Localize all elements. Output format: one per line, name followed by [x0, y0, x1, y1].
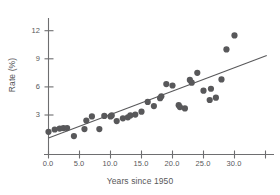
data-point: [163, 81, 169, 87]
data-point: [213, 95, 219, 101]
x-tick-label-5: 25.0: [196, 160, 211, 168]
data-point: [83, 118, 89, 124]
data-point: [109, 112, 115, 118]
data-point: [138, 109, 144, 115]
scatter-plot-figure: 0.0 5.0 10.0 15.0 20.0 25.0 30.0 3 6 9 1…: [0, 0, 280, 195]
data-point: [101, 113, 107, 119]
data-point: [114, 118, 120, 124]
data-point: [207, 97, 213, 103]
data-point: [64, 125, 70, 131]
data-point: [189, 80, 195, 86]
x-tick-label-0: 0.0: [43, 160, 54, 168]
data-point: [145, 99, 151, 105]
y-tick-label-6: 6: [22, 83, 40, 91]
data-point: [96, 126, 102, 132]
x-tick-label-4: 20.0: [165, 160, 180, 168]
data-points-group: [45, 32, 237, 139]
y-axis-title: Rate (%): [7, 45, 17, 105]
axes-group: [44, 18, 274, 159]
x-tick-label-6: 30.0: [227, 160, 242, 168]
y-tick-label-9: 9: [22, 55, 40, 63]
data-point: [132, 111, 138, 117]
x-axis-title: Years since 1950: [0, 176, 280, 186]
data-point: [158, 93, 164, 99]
x-tick-label-2: 10.0: [103, 160, 118, 168]
data-point: [81, 126, 87, 132]
data-point: [89, 113, 95, 119]
y-tick-label-3: 3: [22, 111, 40, 119]
x-tick-label-1: 5.0: [74, 160, 85, 168]
data-point: [218, 76, 224, 82]
data-point: [71, 133, 77, 139]
data-point: [45, 129, 51, 135]
data-point: [200, 88, 206, 94]
data-point: [231, 32, 237, 38]
data-point: [151, 103, 157, 109]
data-point: [223, 46, 229, 52]
data-point: [169, 82, 175, 88]
data-point: [208, 86, 214, 92]
data-point: [194, 70, 200, 76]
y-tick-label-12: 12: [22, 27, 40, 35]
x-tick-label-3: 15.0: [134, 160, 149, 168]
data-point: [182, 105, 188, 111]
